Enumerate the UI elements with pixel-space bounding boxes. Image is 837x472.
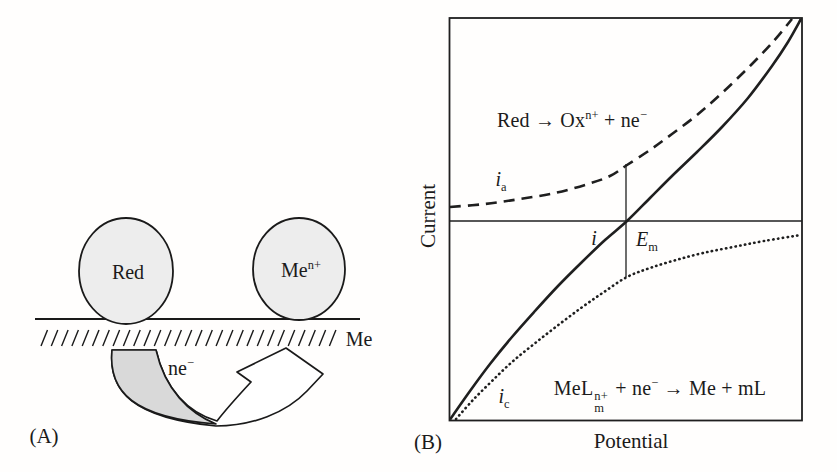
stacked-sub-sup: n+m (594, 391, 608, 414)
cathodic-reaction-label: MeLn+m + ne− → Me + mL (554, 378, 766, 414)
panel-b-plot (450, 18, 803, 421)
electron-transfer-arrow-shading (112, 350, 216, 424)
cathodic-curve-label: ic (498, 386, 509, 406)
x-axis-label: Potential (594, 431, 669, 452)
panel-b-tag: (B) (414, 432, 442, 453)
metal-ion-label: Men+ (281, 260, 321, 280)
anodic-curve-label: ia (495, 169, 506, 189)
electron-label: ne− (168, 358, 194, 378)
panel-a-tag: (A) (29, 426, 58, 447)
mixed-potential-label: Em (636, 229, 658, 249)
red-species-label: Red (112, 262, 144, 282)
anodic-reaction-label: Red → Oxn+ + ne− (497, 110, 647, 130)
surface-hatching (41, 330, 336, 346)
surface-metal-label: Me (346, 329, 373, 349)
figure: Red Men+ Me ne− (A) Current Potential (B… (0, 0, 837, 472)
y-axis-label: Current (418, 184, 439, 248)
panel-a-drawing (35, 218, 360, 426)
total-curve-label: i (591, 228, 597, 248)
